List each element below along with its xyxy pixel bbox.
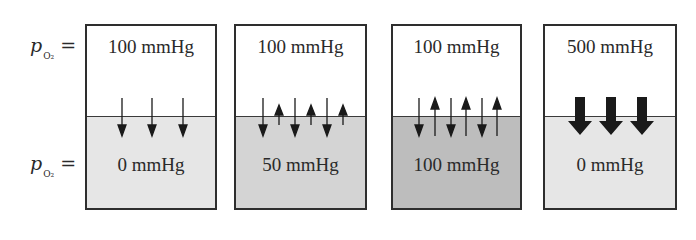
equals-sign: = [60,34,76,56]
equals-sign: = [60,152,76,174]
panel-4: 500 mmHg 0 mmHg [543,24,677,210]
symbol-p: p [30,152,42,174]
row-label-upper-po2: pO₂= [30,34,76,61]
panel-2: 100 mmHg 50 mmHg [234,24,367,210]
equilibrium-arrows-icon [393,26,520,208]
panel-3: 100 mmHg 100 mmHg [391,24,522,210]
panel-1: 100 mmHg 0 mmHg [85,24,217,210]
bidirectional-arrows-icon [236,26,365,208]
subscript-o2: O₂ [43,51,54,61]
symbol-p: p [30,34,42,56]
thick-down-arrows-icon [545,26,675,208]
subscript-o2: O₂ [43,169,54,179]
down-arrows-icon [87,26,215,208]
row-label-lower-po2: pO₂= [30,152,76,179]
